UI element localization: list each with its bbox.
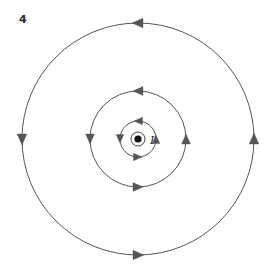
outer-arrow-bottom xyxy=(133,250,144,260)
current-label: I xyxy=(149,134,155,147)
inner-arrow-left xyxy=(116,135,124,144)
current-dot-icon xyxy=(134,135,141,142)
field-lines-diagram: I xyxy=(0,0,271,273)
inner-arrow-top xyxy=(134,117,143,125)
figure-canvas: 4 xyxy=(0,0,271,273)
middle-arrow-left xyxy=(86,134,95,144)
middle-arrow-bottom xyxy=(133,183,143,192)
outer-arrow-right xyxy=(249,133,259,144)
current-out-of-page-symbol xyxy=(131,132,145,146)
middle-arrow-right xyxy=(182,134,191,144)
middle-arrow-top xyxy=(133,87,143,96)
inner-arrow-bottom xyxy=(134,153,143,161)
outer-arrow-top xyxy=(132,18,143,28)
outer-arrow-left xyxy=(17,134,27,145)
